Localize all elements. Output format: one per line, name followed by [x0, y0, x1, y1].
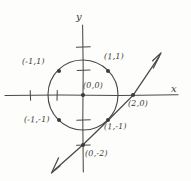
coordinate-plane-figure: (-1,1) (1,1) (0,0) (2,0) (-1,-1) (1,-1) … — [0, 0, 191, 181]
x-axis-label: x — [171, 84, 177, 94]
arrowhead-upper-right — [153, 53, 161, 68]
point-label-2-0: (2,0) — [128, 100, 148, 108]
point-label-0-neg2: (0,-2) — [85, 150, 108, 158]
point-label-origin: (0,0) — [83, 82, 103, 90]
point-label-neg1-1: (-1,1) — [22, 58, 45, 66]
point-dot-0-neg2 — [81, 143, 85, 147]
point-dot-2-0 — [131, 93, 135, 97]
point-label-1-neg1: (1,-1) — [104, 123, 127, 132]
y-axis-label: y — [76, 12, 82, 22]
point-dot-neg1-neg1 — [57, 118, 61, 122]
point-dot-neg1-1 — [57, 69, 61, 73]
point-dot-origin — [81, 93, 85, 97]
point-label-1-1: (1,1) — [104, 53, 124, 62]
x-axis-line — [5, 95, 178, 96]
point-label-neg1-neg1: (-1,-1) — [24, 116, 50, 125]
y-tick-plus-2 — [76, 47, 90, 48]
point-dot-1-1 — [106, 69, 110, 73]
